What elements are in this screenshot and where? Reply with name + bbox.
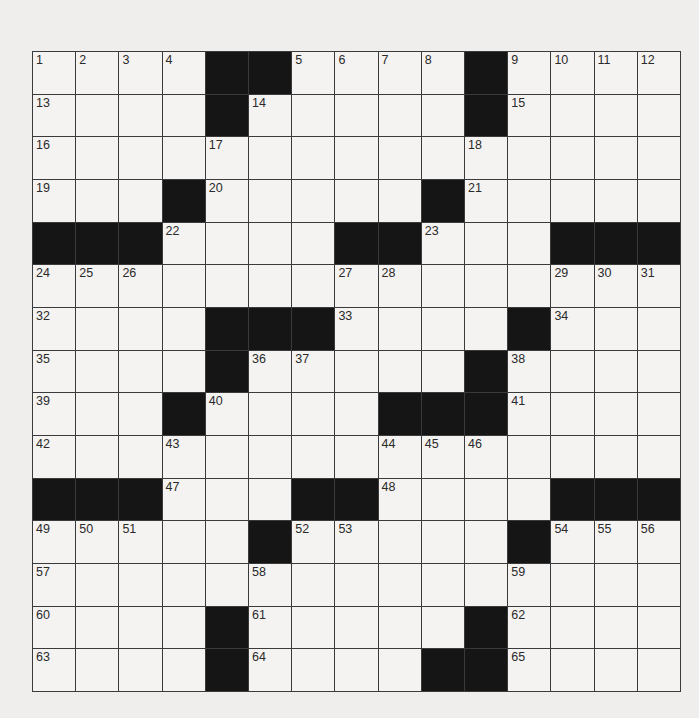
answer-cell[interactable] <box>76 351 118 393</box>
answer-cell[interactable] <box>119 393 161 435</box>
answer-cell[interactable] <box>465 223 507 265</box>
answer-cell[interactable] <box>206 265 248 307</box>
answer-cell[interactable]: 2 <box>76 52 118 94</box>
answer-cell[interactable]: 6 <box>335 52 377 94</box>
answer-cell[interactable] <box>465 564 507 606</box>
answer-cell[interactable] <box>206 436 248 478</box>
answer-cell[interactable] <box>119 649 161 691</box>
answer-cell[interactable]: 30 <box>595 265 637 307</box>
answer-cell[interactable] <box>119 436 161 478</box>
answer-cell[interactable]: 44 <box>379 436 421 478</box>
answer-cell[interactable] <box>638 607 680 649</box>
answer-cell[interactable] <box>551 607 593 649</box>
answer-cell[interactable] <box>638 649 680 691</box>
answer-cell[interactable]: 61 <box>249 607 291 649</box>
answer-cell[interactable] <box>119 308 161 350</box>
answer-cell[interactable]: 60 <box>33 607 75 649</box>
answer-cell[interactable] <box>76 436 118 478</box>
answer-cell[interactable]: 17 <box>206 137 248 179</box>
answer-cell[interactable] <box>422 351 464 393</box>
answer-cell[interactable] <box>163 137 205 179</box>
answer-cell[interactable] <box>465 521 507 563</box>
answer-cell[interactable]: 40 <box>206 393 248 435</box>
answer-cell[interactable] <box>249 265 291 307</box>
answer-cell[interactable] <box>595 137 637 179</box>
answer-cell[interactable] <box>551 137 593 179</box>
answer-cell[interactable] <box>206 479 248 521</box>
answer-cell[interactable] <box>292 95 334 137</box>
answer-cell[interactable]: 25 <box>76 265 118 307</box>
answer-cell[interactable]: 3 <box>119 52 161 94</box>
answer-cell[interactable]: 1 <box>33 52 75 94</box>
answer-cell[interactable] <box>595 393 637 435</box>
answer-cell[interactable] <box>119 137 161 179</box>
answer-cell[interactable]: 37 <box>292 351 334 393</box>
answer-cell[interactable] <box>422 521 464 563</box>
answer-cell[interactable]: 36 <box>249 351 291 393</box>
answer-cell[interactable]: 33 <box>335 308 377 350</box>
answer-cell[interactable] <box>292 265 334 307</box>
answer-cell[interactable]: 57 <box>33 564 75 606</box>
answer-cell[interactable]: 23 <box>422 223 464 265</box>
answer-cell[interactable] <box>379 137 421 179</box>
answer-cell[interactable] <box>335 436 377 478</box>
answer-cell[interactable] <box>379 521 421 563</box>
answer-cell[interactable] <box>292 564 334 606</box>
answer-cell[interactable]: 11 <box>595 52 637 94</box>
answer-cell[interactable] <box>638 436 680 478</box>
answer-cell[interactable] <box>292 180 334 222</box>
answer-cell[interactable]: 59 <box>508 564 550 606</box>
answer-cell[interactable]: 26 <box>119 265 161 307</box>
answer-cell[interactable] <box>508 137 550 179</box>
answer-cell[interactable] <box>379 564 421 606</box>
answer-cell[interactable] <box>379 308 421 350</box>
answer-cell[interactable] <box>76 137 118 179</box>
answer-cell[interactable]: 53 <box>335 521 377 563</box>
answer-cell[interactable]: 55 <box>595 521 637 563</box>
answer-cell[interactable] <box>249 137 291 179</box>
answer-cell[interactable] <box>465 308 507 350</box>
answer-cell[interactable]: 4 <box>163 52 205 94</box>
answer-cell[interactable] <box>595 180 637 222</box>
answer-cell[interactable]: 14 <box>249 95 291 137</box>
answer-cell[interactable] <box>119 564 161 606</box>
answer-cell[interactable]: 28 <box>379 265 421 307</box>
answer-cell[interactable] <box>163 95 205 137</box>
answer-cell[interactable]: 27 <box>335 265 377 307</box>
answer-cell[interactable] <box>335 393 377 435</box>
answer-cell[interactable] <box>379 351 421 393</box>
answer-cell[interactable]: 43 <box>163 436 205 478</box>
answer-cell[interactable] <box>551 95 593 137</box>
answer-cell[interactable] <box>76 649 118 691</box>
answer-cell[interactable] <box>335 95 377 137</box>
answer-cell[interactable]: 29 <box>551 265 593 307</box>
answer-cell[interactable] <box>422 95 464 137</box>
answer-cell[interactable]: 19 <box>33 180 75 222</box>
answer-cell[interactable] <box>422 308 464 350</box>
answer-cell[interactable]: 64 <box>249 649 291 691</box>
answer-cell[interactable]: 51 <box>119 521 161 563</box>
answer-cell[interactable] <box>595 607 637 649</box>
answer-cell[interactable]: 9 <box>508 52 550 94</box>
answer-cell[interactable]: 48 <box>379 479 421 521</box>
answer-cell[interactable]: 12 <box>638 52 680 94</box>
answer-cell[interactable] <box>595 436 637 478</box>
answer-cell[interactable] <box>119 180 161 222</box>
answer-cell[interactable] <box>508 223 550 265</box>
answer-cell[interactable] <box>379 607 421 649</box>
answer-cell[interactable] <box>508 180 550 222</box>
answer-cell[interactable]: 22 <box>163 223 205 265</box>
answer-cell[interactable]: 31 <box>638 265 680 307</box>
answer-cell[interactable]: 34 <box>551 308 593 350</box>
answer-cell[interactable] <box>422 137 464 179</box>
answer-cell[interactable] <box>249 436 291 478</box>
answer-cell[interactable] <box>508 265 550 307</box>
answer-cell[interactable] <box>292 607 334 649</box>
answer-cell[interactable] <box>551 649 593 691</box>
answer-cell[interactable] <box>638 564 680 606</box>
answer-cell[interactable]: 21 <box>465 180 507 222</box>
answer-cell[interactable]: 42 <box>33 436 75 478</box>
answer-cell[interactable] <box>638 393 680 435</box>
answer-cell[interactable] <box>119 95 161 137</box>
answer-cell[interactable] <box>595 308 637 350</box>
